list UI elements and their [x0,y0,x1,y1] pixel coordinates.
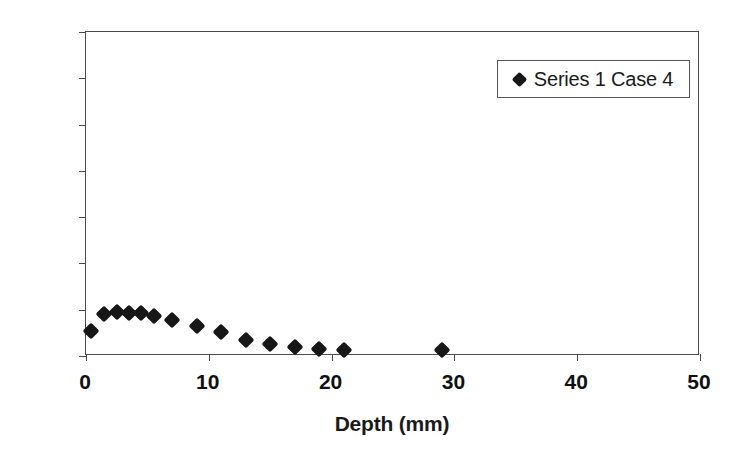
y-axis-tick [79,263,86,264]
data-point-marker [286,339,303,356]
y-axis-tick [79,78,86,79]
x-axis-tick-label: 30 [425,371,481,392]
x-axis-tick-label: 50 [671,371,727,392]
data-point-marker [237,331,254,348]
data-point-marker [213,323,230,340]
data-point-marker [145,307,162,324]
y-axis-tick [79,356,86,357]
x-axis-tick [209,354,210,361]
y-axis-tick [79,32,86,33]
x-axis-tick [332,354,333,361]
y-axis-tick [79,310,86,311]
x-axis-tick [454,354,455,361]
data-point-marker [82,322,99,339]
data-point-marker [188,317,205,334]
data-point-marker [335,342,352,359]
x-axis-tick-label: 0 [57,371,113,392]
x-axis-tick [86,354,87,361]
chart-figure: Cl- [mass% of binder] 01234567 010203040… [0,0,731,463]
x-axis-tick-label: 40 [548,371,604,392]
y-axis-tick [79,217,86,218]
data-point-marker [163,311,180,328]
x-axis-tick [700,354,701,361]
y-axis-tick [79,125,86,126]
data-point-marker [434,341,451,358]
legend-entry-label: Series 1 Case 4 [534,68,673,91]
x-axis-tick-label: 10 [180,371,236,392]
data-point-marker [311,341,328,358]
diamond-marker-icon [512,71,528,87]
x-axis-tick-label: 20 [303,371,359,392]
chart-legend: Series 1 Case 4 [497,60,690,98]
data-point-marker [262,335,279,352]
x-axis-tick [577,354,578,361]
x-axis-title: Depth (mm) [85,412,699,436]
y-axis-tick [79,171,86,172]
